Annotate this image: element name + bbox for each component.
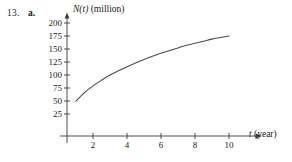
y-axis-arrowhead xyxy=(65,13,70,19)
plot-area xyxy=(0,0,292,162)
x-axis-arrowhead xyxy=(256,134,262,139)
data-curve-N-of-t xyxy=(76,36,229,101)
figure-container: 13. a. N(t) (million) t (year) 25 50 75 … xyxy=(0,0,292,162)
